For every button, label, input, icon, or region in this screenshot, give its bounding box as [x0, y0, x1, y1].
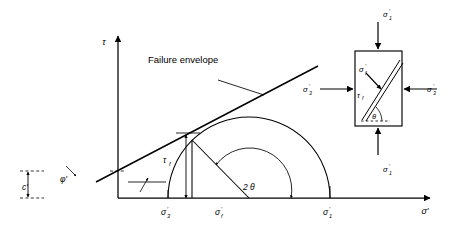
sigma3-left-symbol: σ	[303, 85, 308, 94]
sigma3-left-label: σ ′ 3	[303, 83, 312, 96]
tau-f-subscript: f	[169, 161, 172, 167]
angle-2theta-label: 2 θ	[242, 182, 255, 192]
theta-arc	[376, 107, 382, 121]
sigma-f-block-arrow	[366, 73, 381, 89]
x-axis-label: σ′	[421, 206, 428, 216]
sigma1-axis-label: σ ′ 1	[323, 206, 332, 219]
failure-envelope-label: Failure envelope	[148, 54, 218, 65]
stress-element-block: θ σ ′ f τ f σ ′ 1 σ	[303, 8, 437, 176]
sigma1-subscript: 1	[329, 213, 332, 219]
tau-f-dimension	[176, 133, 200, 198]
sigma1-bottom-label: σ ′ 1	[383, 163, 392, 176]
sigma3-prime: ′	[167, 206, 169, 212]
sigma-f-block-symbol: σ	[359, 65, 364, 74]
sigmaf-prime: ′	[221, 206, 223, 212]
sigma3-axis-label: σ ′ 3	[161, 206, 171, 219]
mohr-coulomb-figure: τ σ′ Failure envelope 2 θ τ f	[0, 0, 450, 231]
angle-2theta-symbol: θ	[250, 182, 255, 192]
tau-f-block-symbol: τ	[357, 91, 361, 100]
phi-prime-leader-upper	[66, 166, 76, 176]
sigma3-right-label: σ ′ 3	[427, 83, 436, 96]
tau-f-block-subscript: f	[362, 95, 364, 101]
phi-prime-angle	[66, 166, 166, 192]
angle-2theta-prefix: 2	[242, 182, 248, 192]
sigmaf-subscript: f	[221, 213, 224, 219]
failure-envelope-line	[96, 66, 318, 182]
figure-canvas: τ σ′ Failure envelope 2 θ τ f	[0, 0, 450, 231]
failure-envelope-leader	[218, 80, 264, 95]
tau-f-block-label: τ f	[357, 91, 364, 101]
sigma3-subscript: 3	[167, 213, 171, 219]
sigma1-top-symbol: σ	[383, 10, 388, 19]
sigma-f-block-prime: ′	[365, 63, 367, 69]
c-prime-label: c′	[22, 182, 28, 192]
sigma1-prime: ′	[329, 206, 331, 212]
theta-label: θ	[372, 112, 376, 121]
stress-block-rect	[355, 51, 402, 126]
sigma3-left-subscript: 3	[309, 90, 312, 96]
phi-prime-leader-lower	[140, 178, 148, 192]
sigma3-right-subscript: 3	[433, 90, 436, 96]
sigma1-bottom-prime: ′	[389, 163, 391, 169]
sigma3-right-symbol: σ	[427, 85, 432, 94]
y-axis-label: τ	[102, 37, 106, 47]
sigmaf-axis-label: σ ′ f	[215, 206, 224, 219]
sigma1-bottom-subscript: 1	[389, 170, 392, 176]
sigma1-bottom-symbol: σ	[383, 165, 388, 174]
sigma3-right-prime: ′	[433, 83, 435, 89]
failure-plane-line-a	[362, 60, 400, 120]
phi-prime-label: φ′	[60, 174, 68, 184]
tau-f-label: τ f	[163, 155, 172, 167]
sigma1-top-prime: ′	[389, 8, 391, 14]
sigma1-top-label: σ ′ 1	[383, 8, 392, 21]
sigma3-left-prime: ′	[309, 83, 311, 89]
tau-f-symbol: τ	[163, 155, 167, 165]
sigma-f-block-label: σ ′ f	[359, 63, 367, 76]
sigma1-top-subscript: 1	[389, 15, 392, 21]
